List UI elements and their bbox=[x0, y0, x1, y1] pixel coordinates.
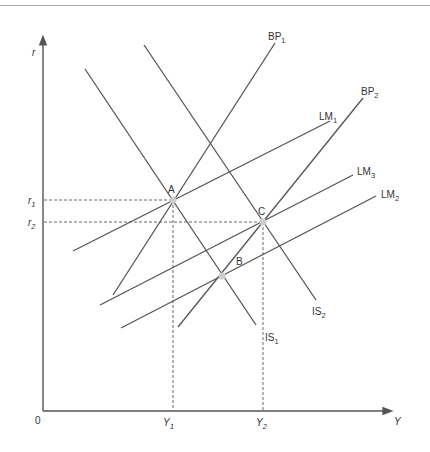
y2-label: Y2 bbox=[256, 417, 268, 431]
lm1-label: LM1 bbox=[319, 111, 337, 125]
y1-label: Y1 bbox=[163, 417, 174, 431]
r1-label: r1 bbox=[28, 195, 36, 209]
is1-curve bbox=[85, 69, 256, 325]
point-b-label: B bbox=[236, 256, 243, 267]
y-axis-label: r bbox=[32, 47, 36, 58]
is1-label: IS1 bbox=[265, 332, 279, 346]
lm2-curve bbox=[121, 196, 376, 328]
lm3-label: LM3 bbox=[357, 166, 375, 180]
origin-label: 0 bbox=[35, 415, 41, 426]
r2-label: r2 bbox=[28, 217, 36, 231]
point-a-label: A bbox=[168, 184, 175, 195]
x-axis-label: Y bbox=[394, 416, 402, 427]
point-c-marker bbox=[260, 219, 267, 226]
point-b-marker bbox=[219, 273, 226, 280]
point-c-label: C bbox=[258, 206, 265, 217]
bp2-label: BP2 bbox=[361, 86, 379, 100]
bp2-curve bbox=[178, 98, 363, 327]
is2-label: IS2 bbox=[312, 306, 326, 320]
bp1-label: BP1 bbox=[268, 31, 286, 45]
lm2-label: LM2 bbox=[381, 189, 399, 203]
lm3-curve bbox=[100, 175, 353, 305]
point-a-marker bbox=[170, 197, 177, 204]
is-lm-bp-diagram: r 0 Y r1 r2 Y1 Y2 BP1 BP2 LM1 LM2 LM3 IS… bbox=[0, 0, 430, 452]
